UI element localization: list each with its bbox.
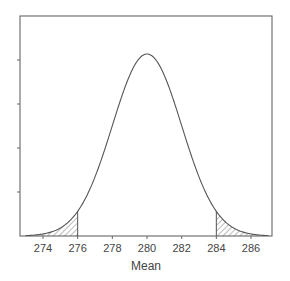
- x-axis-ticks: 274276278280282284286: [34, 236, 260, 254]
- x-tick-label: 274: [34, 242, 52, 254]
- x-tick-label: 280: [138, 242, 156, 254]
- tail-shading: [26, 211, 269, 236]
- normal-curve-chart: 274276278280282284286 Mean: [0, 0, 290, 281]
- x-tick-label: 282: [172, 242, 190, 254]
- x-tick-label: 286: [242, 242, 260, 254]
- x-tick-label: 278: [103, 242, 121, 254]
- x-tick-label: 276: [68, 242, 86, 254]
- x-tick-label: 284: [207, 242, 225, 254]
- density-curve: [26, 54, 269, 236]
- critical-value-lines: [78, 211, 217, 236]
- x-axis-title: Mean: [131, 259, 161, 273]
- plot-frame: [20, 16, 272, 236]
